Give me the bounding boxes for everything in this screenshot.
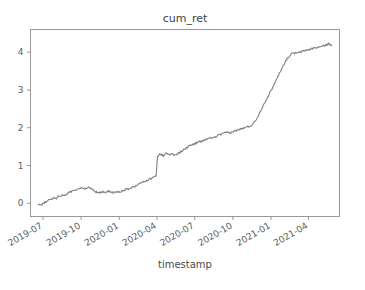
y-tick-label: 4 [18, 47, 24, 57]
chart-title: cum_ret [163, 12, 208, 25]
x-axis-title: timestamp [158, 259, 212, 270]
y-tick-label: 2 [18, 123, 24, 133]
chart-figure: cum_ret 01234 2019-072019-102020-012020-… [0, 0, 365, 290]
y-tick-label: 1 [18, 161, 24, 171]
y-tick-label: 3 [18, 85, 24, 95]
line-chart-canvas: cum_ret 01234 2019-072019-102020-012020-… [0, 0, 365, 290]
y-tick-label: 0 [18, 198, 24, 208]
figure-background [0, 0, 365, 290]
